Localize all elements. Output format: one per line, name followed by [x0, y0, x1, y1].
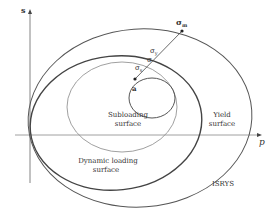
point-sigma-m — [180, 29, 183, 32]
label-a: a — [132, 84, 137, 93]
label-sigma: σ — [147, 56, 152, 64]
isrys-label: ISRYS — [212, 180, 234, 188]
p-axis-label: p — [259, 137, 265, 147]
s-axis-arrow-icon — [28, 9, 32, 14]
s-axis-label: s — [21, 5, 26, 15]
label-sigma-s: σs — [135, 64, 143, 73]
yield-label: Yieldsurface — [209, 111, 235, 128]
stress-surface-diagram: s p a σm σy σ σs Subloadingsurface Yield… — [0, 0, 278, 220]
point-a — [133, 77, 136, 80]
label-sigma-m: σm — [176, 17, 188, 28]
subloading-label: Subloadingsurface — [108, 111, 149, 128]
dynamic-loading-surface — [67, 62, 177, 152]
dynamic-loading-label: Dynamic loadingsurface — [78, 157, 138, 174]
axes: s p — [15, 5, 265, 183]
